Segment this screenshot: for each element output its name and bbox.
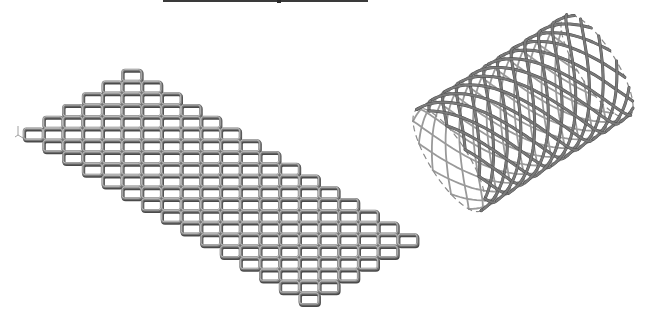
coordinate-axis-icon <box>15 126 23 138</box>
flat-mesh <box>24 70 418 306</box>
mesh-illustration <box>0 0 647 321</box>
figure-canvas: Flat lattice mesh and rolled cylindrical… <box>0 0 647 321</box>
top-rule-notch <box>277 0 281 3</box>
top-rule-line <box>163 0 368 2</box>
